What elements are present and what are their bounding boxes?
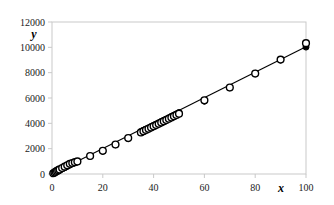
- y-tick-label: 0: [40, 169, 45, 180]
- data-point-open: [201, 97, 208, 104]
- y-tick-label: 12000: [20, 17, 45, 28]
- x-tick-label: 100: [299, 182, 314, 193]
- x-tick-label: 80: [250, 182, 260, 193]
- x-tick-label: 20: [98, 182, 108, 193]
- x-axis-title: x: [277, 181, 284, 195]
- y-tick-label: 10000: [20, 42, 45, 53]
- y-tick-label: 8000: [25, 67, 45, 78]
- data-point-open: [87, 153, 94, 160]
- plot-frame: [52, 22, 306, 174]
- y-tick-label: 2000: [25, 143, 45, 154]
- data-point-open: [226, 84, 233, 91]
- data-point-open: [277, 56, 284, 63]
- data-point-open: [176, 110, 183, 117]
- data-point-open: [99, 147, 106, 154]
- data-point-open: [303, 40, 310, 47]
- scatter-chart: 020004000600080001000012000020406080100y…: [0, 0, 334, 205]
- data-point-open: [112, 141, 119, 148]
- series-open: [50, 40, 310, 177]
- y-axis-title: y: [29, 27, 37, 41]
- data-point-open: [125, 135, 132, 142]
- x-tick-label: 40: [149, 182, 159, 193]
- y-tick-label: 4000: [25, 118, 45, 129]
- y-tick-label: 6000: [25, 93, 45, 104]
- plot-canvas: 020004000600080001000012000020406080100y…: [0, 0, 334, 205]
- x-tick-label: 0: [50, 182, 55, 193]
- data-point-open: [74, 158, 81, 165]
- x-tick-label: 60: [199, 182, 209, 193]
- data-point-open: [252, 70, 259, 77]
